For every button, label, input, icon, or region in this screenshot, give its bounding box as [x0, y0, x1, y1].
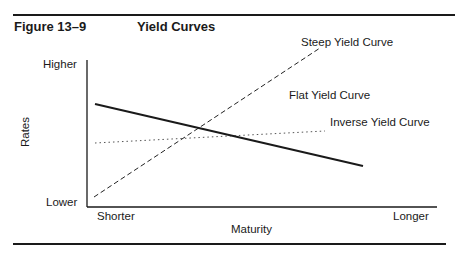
inverse-curve — [95, 104, 363, 166]
inverse-curve-label: Inverse Yield Curve — [330, 116, 430, 128]
flat-curve-label: Flat Yield Curve — [289, 89, 370, 101]
flat-curve — [95, 131, 325, 143]
bottom-rule — [13, 243, 446, 245]
steep-curve-label: Steep Yield Curve — [301, 36, 393, 48]
steep-curve — [94, 48, 320, 197]
